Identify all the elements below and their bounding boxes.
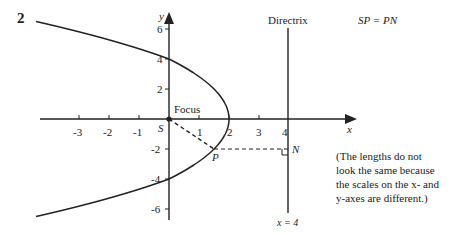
svg-text:(The lengths do not: (The lengths do not: [336, 150, 422, 163]
svg-text:-2: -2: [103, 126, 112, 138]
right-angle-marker: [282, 149, 288, 155]
n-label: N: [291, 143, 300, 155]
svg-text:-1: -1: [133, 126, 142, 138]
svg-text:4: 4: [282, 126, 288, 138]
svg-text:-2: -2: [151, 143, 160, 155]
y-axis-arrow-icon: [164, 12, 174, 24]
directrix-label: Directrix: [268, 14, 308, 26]
x-tick-labels: -3 -2 -1 1 2 3 4: [73, 126, 288, 138]
equation-sp-pn: SP = PN: [358, 14, 398, 26]
svg-text:-6: -6: [151, 203, 161, 215]
directrix-equation: x = 4: [276, 217, 298, 228]
focus-label: Focus: [174, 103, 200, 115]
question-number: 2: [17, 10, 25, 26]
p-label: P: [211, 151, 219, 163]
parabola-diagram: 2 x y -3 -2 -1 1 2 3 4 6 4 2 -2 -4 -6 Di…: [0, 0, 459, 235]
svg-text:the scales on the x- and: the scales on the x- and: [336, 178, 439, 190]
svg-text:look the same because: look the same because: [336, 164, 435, 176]
s-label: S: [158, 122, 164, 134]
svg-text:3: 3: [256, 126, 262, 138]
svg-text:y-axes are different.): y-axes are different.): [336, 192, 428, 205]
sp-segment: [169, 119, 214, 149]
y-axis-label: y: [158, 10, 164, 22]
x-axis-label: x: [346, 123, 352, 135]
svg-text:1: 1: [197, 126, 203, 138]
svg-text:-3: -3: [73, 126, 83, 138]
svg-text:2: 2: [157, 83, 163, 95]
scale-note: (The lengths do not look the same becaus…: [336, 150, 439, 205]
svg-text:6: 6: [157, 23, 163, 35]
